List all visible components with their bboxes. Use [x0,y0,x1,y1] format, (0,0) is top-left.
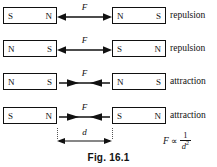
magnet-pair-row: S N F N S repulsion [0,4,217,26]
force-arrow-zone: F [57,37,112,59]
right-magnet-left-pole: N [117,77,124,86]
left-magnet-right-pole: N [46,111,53,120]
right-magnet-bar: N S [112,7,166,24]
force-arrow-zone: F [57,70,112,92]
interaction-effect-label: repulsion [170,43,205,53]
left-magnet-left-pole: S [8,11,13,20]
left-magnet-bar: N S [3,73,57,90]
figure-caption: Fig. 16.1 [0,152,217,163]
left-magnet-right-pole: S [47,44,52,53]
interaction-effect-label: attraction [170,110,206,120]
extension-line-right [112,128,113,139]
force-arrow-outward-icon [57,8,112,26]
force-arrow-outward-icon [57,41,112,59]
interaction-effect-label: attraction [170,76,206,86]
interaction-effect-label: repulsion [170,10,205,20]
right-magnet-left-pole: S [117,44,122,53]
left-magnet-bar: S N [3,107,57,124]
force-arrow-zone: F [57,104,112,126]
left-magnet-bar: N S [3,40,57,57]
right-magnet-right-pole: N [155,44,162,53]
formula-quantity: F [163,136,169,146]
force-proportionality-formula: F ∝ 1 d2 [163,131,191,150]
right-magnet-right-pole: S [156,77,161,86]
distance-arrow-icon [57,136,112,146]
magnet-pair-row: N S F S N repulsion [0,37,217,59]
right-magnet-bar: N S [112,73,166,90]
force-arrow-inward-icon [57,74,112,92]
magnet-pair-row: N S F N S attraction [0,70,217,92]
left-magnet-bar: S N [3,7,57,24]
magnet-pair-row: S N F S N attraction [0,104,217,126]
right-magnet-right-pole: S [156,11,161,20]
left-magnet-left-pole: N [8,44,15,53]
fraction-numerator: 1 [181,131,189,140]
inverse-square-fraction: 1 d2 [180,131,191,150]
right-magnet-bar: S N [112,40,166,57]
left-magnet-right-pole: N [46,11,53,20]
right-magnet-left-pole: S [117,111,122,120]
denominator-exponent: 2 [186,140,189,146]
left-magnet-left-pole: S [8,111,13,120]
force-arrow-zone: F [57,4,112,26]
magnet-force-figure: S N F N S repulsion N S F [0,0,217,167]
left-magnet-left-pole: N [8,77,15,86]
force-arrow-inward-icon [57,108,112,126]
proportional-to-icon: ∝ [171,136,177,146]
right-magnet-bar: S N [112,107,166,124]
left-magnet-right-pole: S [47,77,52,86]
right-magnet-left-pole: N [117,11,124,20]
right-magnet-right-pole: N [155,111,162,120]
fraction-denominator: d2 [180,141,191,150]
